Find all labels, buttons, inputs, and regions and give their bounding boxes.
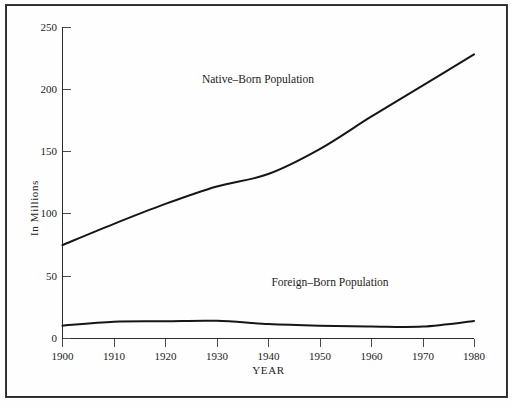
y-tick-labels: 250 200 150 100 50 0 — [41, 21, 58, 344]
x-tick-marks — [63, 339, 475, 347]
x-tick-label: 1960 — [361, 350, 384, 362]
y-tick-label: 50 — [46, 270, 58, 282]
y-axis-title: In Millions — [28, 180, 40, 236]
y-tick-label: 200 — [41, 83, 58, 95]
x-tick-label: 1980 — [463, 350, 486, 362]
x-tick-label: 1910 — [103, 350, 126, 362]
x-tick-label: 1940 — [258, 350, 281, 362]
foreign-born-population-line — [63, 321, 475, 327]
x-tick-label: 1970 — [412, 350, 435, 362]
x-tick-label: 1930 — [206, 350, 229, 362]
x-tick-labels: 1900 1910 1920 1930 1940 1950 1960 1970 … — [52, 350, 486, 362]
x-tick-label: 1950 — [309, 350, 332, 362]
y-tick-label: 150 — [41, 145, 58, 157]
line-chart: 250 200 150 100 50 0 1900 1910 1920 1930… — [0, 0, 512, 410]
x-axis-title: YEAR — [252, 364, 284, 376]
y-tick-label: 0 — [52, 332, 58, 344]
native-born-population-label: Native–Born Population — [202, 73, 314, 86]
y-tick-marks — [63, 28, 71, 339]
figure-container: 250 200 150 100 50 0 1900 1910 1920 1930… — [0, 0, 512, 410]
foreign-born-population-label: Foreign–Born Population — [271, 276, 388, 289]
y-tick-label: 100 — [41, 207, 58, 219]
x-tick-label: 1920 — [155, 350, 178, 362]
x-tick-label: 1900 — [52, 350, 75, 362]
y-tick-label: 250 — [41, 21, 58, 33]
